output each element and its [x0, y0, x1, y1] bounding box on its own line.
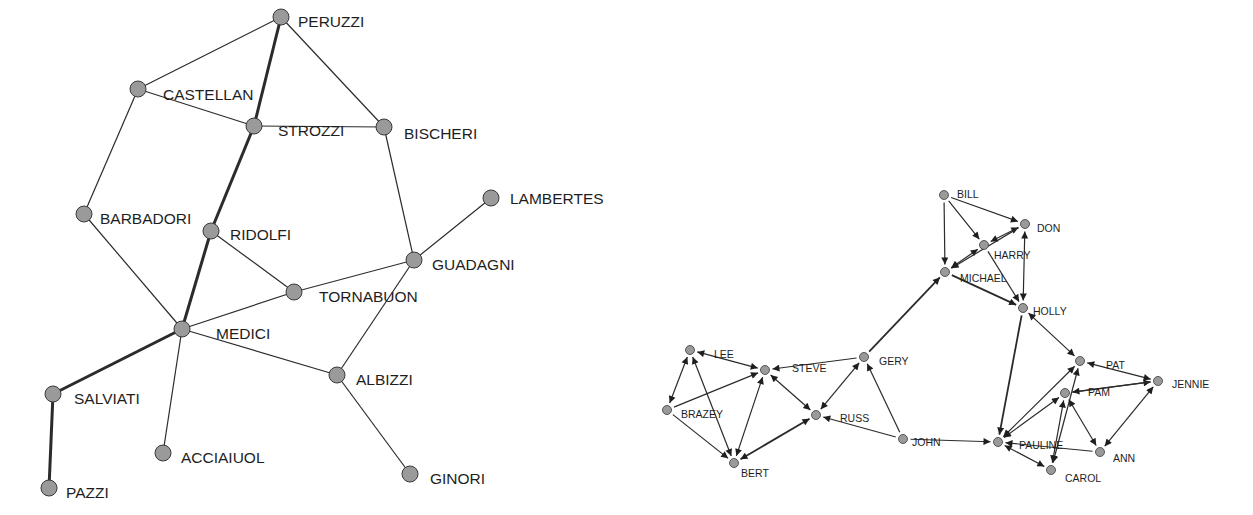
node-bert[interactable]: BERT [730, 459, 770, 479]
node-label: BERT [741, 467, 769, 479]
node-bill[interactable]: BILL [940, 188, 979, 200]
node-label: MICHAEL [960, 272, 1007, 284]
node-circle[interactable] [273, 9, 289, 25]
node-steve[interactable]: STEVE [761, 362, 827, 375]
node-circle[interactable] [860, 353, 869, 362]
node-lambertes[interactable]: LAMBERTES [483, 190, 604, 207]
node-pam[interactable]: PAM [1061, 386, 1110, 398]
node-john[interactable]: JOHN [899, 435, 941, 448]
node-carol[interactable]: CAROL [1047, 466, 1102, 484]
edge-castellan-barbadori [84, 89, 138, 214]
node-holly[interactable]: HOLLY [1019, 304, 1067, 317]
node-pazzi[interactable]: PAZZI [41, 480, 109, 501]
node-circle[interactable] [406, 252, 422, 268]
node-label: LAMBERTES [510, 190, 604, 207]
node-medici[interactable]: MEDICI [174, 321, 270, 342]
node-circle[interactable] [483, 190, 499, 206]
node-circle[interactable] [761, 366, 770, 375]
node-label: ANN [1113, 452, 1135, 464]
node-barbadori[interactable]: BARBADORI [76, 206, 191, 227]
node-circle[interactable] [1154, 377, 1163, 386]
edge-gery-russ [821, 363, 859, 409]
node-circle[interactable] [1019, 304, 1028, 313]
directed-friendship-network: BILLDONHARRYMICHAELHOLLYPATJENNIEPAMPAUL… [663, 188, 1210, 484]
node-don[interactable]: DON [1021, 220, 1061, 234]
node-circle[interactable] [376, 119, 392, 135]
node-label: BARBADORI [100, 210, 191, 227]
node-circle[interactable] [174, 321, 190, 337]
edge-holly-pauline [999, 315, 1021, 434]
node-label: GERY [879, 355, 909, 367]
node-label: CASTELLAN [163, 86, 253, 103]
node-circle[interactable] [980, 241, 989, 250]
node-guadagni[interactable]: GUADAGNI [406, 252, 515, 273]
node-label: JENNIE [1172, 378, 1209, 390]
node-label: CAROL [1065, 472, 1101, 484]
right-network-nodes: BILLDONHARRYMICHAELHOLLYPATJENNIEPAMPAUL… [663, 188, 1210, 484]
edge-peruzzi-strozzi [254, 17, 281, 126]
node-circle[interactable] [45, 386, 61, 402]
node-circle[interactable] [246, 118, 262, 134]
edge-bill-michael [944, 202, 945, 264]
node-circle[interactable] [286, 284, 302, 300]
node-label: RUSS [840, 412, 869, 424]
node-michael[interactable]: MICHAEL [941, 268, 1007, 284]
edge-ann-jennie [1105, 387, 1154, 446]
edge-don-holly [1023, 231, 1025, 300]
node-peruzzi[interactable]: PERUZZI [273, 9, 364, 30]
node-label: PAT [1106, 359, 1125, 371]
node-label: LEE [714, 348, 734, 360]
edge-bert-steve [736, 377, 762, 456]
node-label: HARRY [994, 249, 1031, 261]
edge-lee-brazey [670, 357, 688, 403]
edge-harry-don [991, 227, 1019, 241]
node-brazey[interactable]: BRAZEY [663, 406, 724, 420]
edge-brazey-bert [673, 415, 728, 459]
node-ridolfi[interactable]: RIDOLFI [203, 223, 291, 243]
node-circle[interactable] [1096, 448, 1105, 457]
node-circle[interactable] [130, 81, 146, 97]
edge-lambertes-guadagni [414, 198, 491, 260]
node-circle[interactable] [1047, 466, 1056, 475]
node-harry[interactable]: HARRY [980, 241, 1031, 261]
node-circle[interactable] [76, 206, 92, 222]
edge-peruzzi-castellan [138, 17, 281, 89]
florentine-families-network: PERUZZICASTELLANSTROZZIBISCHERILAMBERTES… [41, 9, 604, 501]
node-strozzi[interactable]: STROZZI [246, 118, 344, 139]
edge-medici-acciaiuol [163, 329, 182, 453]
node-circle[interactable] [1021, 220, 1030, 229]
node-circle[interactable] [730, 459, 739, 468]
node-ann[interactable]: ANN [1096, 448, 1136, 464]
node-russ[interactable]: RUSS [812, 411, 870, 424]
left-network-nodes: PERUZZICASTELLANSTROZZIBISCHERILAMBERTES… [41, 9, 604, 501]
node-acciaiuol[interactable]: ACCIAIUOL [155, 445, 265, 466]
edge-michael-harry [951, 249, 978, 267]
edge-carol-pam [1052, 400, 1063, 462]
node-circle[interactable] [686, 346, 695, 355]
node-ginori[interactable]: GINORI [402, 466, 485, 487]
edge-holly-pat [1028, 313, 1074, 356]
node-circle[interactable] [941, 268, 950, 277]
node-circle[interactable] [329, 367, 345, 383]
node-jennie[interactable]: JENNIE [1154, 377, 1210, 390]
node-circle[interactable] [994, 438, 1003, 447]
node-circle[interactable] [1061, 389, 1070, 398]
node-circle[interactable] [402, 466, 418, 482]
node-circle[interactable] [41, 480, 57, 496]
edge-steve-russ [771, 375, 811, 410]
node-salviati[interactable]: SALVIATI [45, 386, 140, 407]
node-circle[interactable] [203, 223, 219, 239]
edge-medici-salviati [53, 329, 182, 394]
node-tornabuon[interactable]: TORNABUON [286, 284, 418, 305]
node-circle[interactable] [812, 411, 821, 420]
node-bischeri[interactable]: BISCHERI [376, 119, 477, 142]
node-circle[interactable] [155, 445, 171, 461]
node-pauline[interactable]: PAULINE [994, 438, 1064, 451]
node-pat[interactable]: PAT [1076, 357, 1126, 371]
node-circle[interactable] [940, 191, 949, 200]
node-circle[interactable] [1076, 357, 1085, 366]
node-circle[interactable] [899, 435, 908, 444]
node-circle[interactable] [663, 406, 672, 415]
node-gery[interactable]: GERY [860, 353, 909, 367]
node-albizzi[interactable]: ALBIZZI [329, 367, 413, 388]
